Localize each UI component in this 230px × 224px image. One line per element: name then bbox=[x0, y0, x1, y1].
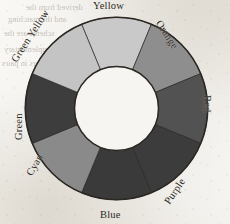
wheel-label-green: Green bbox=[13, 113, 24, 140]
bleed-text-line: derived from the bbox=[26, 2, 83, 12]
color-wheel-svg bbox=[24, 16, 209, 201]
wheel-label-red: Red bbox=[202, 95, 213, 113]
color-wheel-figure: derived from the and the matching scheme… bbox=[0, 0, 230, 224]
color-wheel bbox=[24, 16, 209, 201]
wheel-label-yellow: Yellow bbox=[93, 0, 124, 11]
wheel-inner-hub bbox=[75, 67, 159, 151]
wheel-label-blue: Blue bbox=[100, 209, 121, 220]
